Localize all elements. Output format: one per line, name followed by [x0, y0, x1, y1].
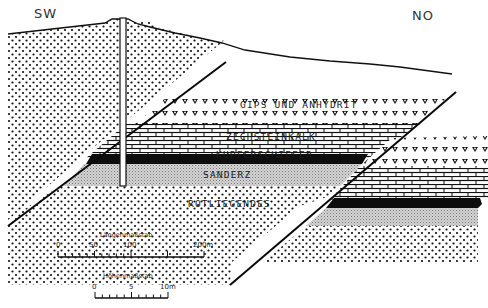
- label-zechsteinkalk: ZECHSTEINKALK: [226, 131, 316, 142]
- length-scale-title: Längenmaßstab: [100, 231, 152, 239]
- height-scale-bar: [95, 292, 168, 298]
- direction-sw: SW: [34, 6, 57, 21]
- height-tick-10: 10m: [160, 283, 176, 291]
- layer-sanderz-right: [306, 208, 478, 226]
- layer-kupferschiefer-right: [326, 198, 482, 208]
- direction-no: NO: [412, 8, 434, 23]
- layer-rotliegendes-right: [262, 226, 478, 263]
- layer-rotliegendes-middle: [8, 186, 340, 285]
- label-sanderz: SANDERZ: [203, 169, 251, 180]
- label-kupferschiefer: KUPFERSCHIEFER: [216, 149, 313, 160]
- label-rotliegendes: ROTLIEGENDES: [188, 198, 271, 209]
- length-tick-50: 50: [89, 241, 98, 249]
- height-scale-title: Höhenmaßstab: [103, 272, 153, 280]
- length-tick-200: 200m: [193, 241, 213, 249]
- height-tick-0: 0: [92, 283, 96, 291]
- geological-cross-section: SW NO GIPS UND ANHYDRIT ZECHSTEINKALK KU…: [0, 0, 488, 308]
- drill-hole: [120, 18, 126, 186]
- height-tick-5: 5: [129, 283, 133, 291]
- length-tick-0: 0: [56, 241, 60, 249]
- length-tick-100: 100: [123, 241, 136, 249]
- label-gips: GIPS UND ANHYDRIT: [240, 99, 358, 110]
